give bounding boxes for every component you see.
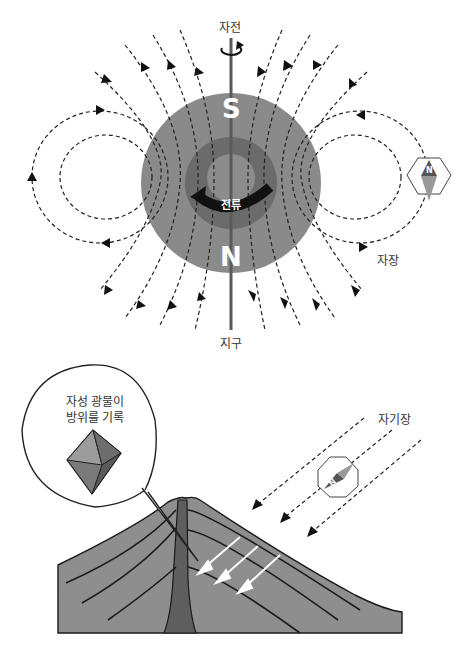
south-pole-label: S bbox=[222, 94, 241, 124]
rotation-label: 자전 bbox=[219, 18, 241, 35]
magnetic-field-label: 자기장 bbox=[378, 410, 411, 427]
callout-text: 자성 광물이 방위를 기록 bbox=[40, 394, 150, 426]
current-label: 전류 bbox=[221, 196, 241, 212]
field-label: 자장 bbox=[377, 251, 399, 268]
diagonal-arrows bbox=[252, 499, 318, 537]
volcano bbox=[58, 497, 402, 633]
compass-needle-label: N bbox=[426, 166, 433, 175]
earth-label: 지구 bbox=[220, 334, 242, 351]
geomagnetism-diagram: 자전 S 전류 N N 자장 지구 자성 광물이 방위를 기록 자기장 N bbox=[0, 0, 471, 653]
compass-bottom bbox=[318, 457, 358, 497]
callout-line-1: 자성 광물이 bbox=[40, 394, 150, 410]
compass-top bbox=[407, 158, 451, 201]
north-pole-label: N bbox=[220, 242, 242, 272]
callout-line-2: 방위를 기록 bbox=[40, 410, 150, 426]
